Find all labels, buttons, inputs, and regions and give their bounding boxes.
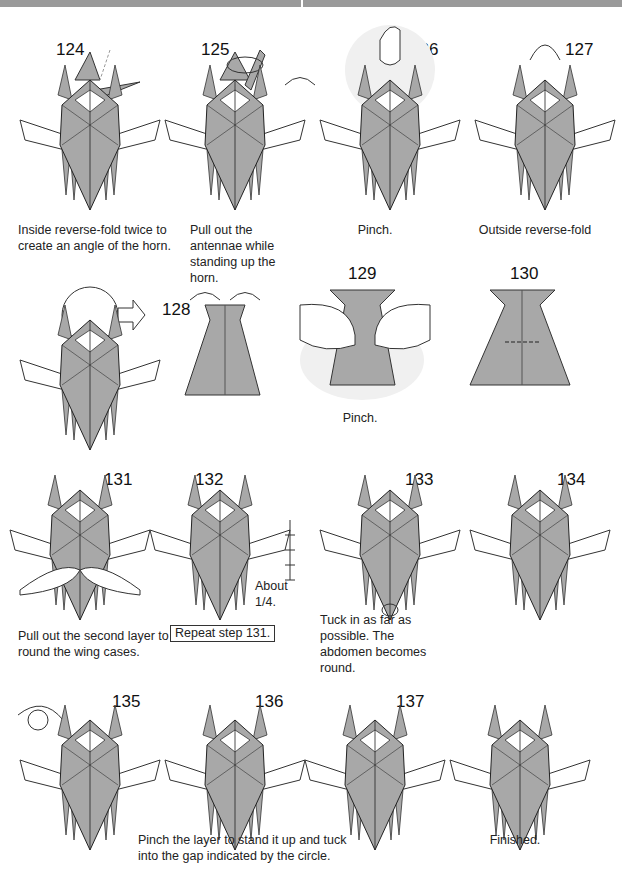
step-135: 135 <box>0 690 155 820</box>
step-136: 136 <box>155 690 310 820</box>
diagram-128-overview <box>0 270 150 420</box>
diagram-132 <box>155 460 310 620</box>
step-129: 129 <box>300 260 460 410</box>
caption-127: Outside reverse-fold <box>460 222 610 238</box>
diagram-137 <box>310 690 465 820</box>
diagram-133 <box>310 460 465 620</box>
step-133: 133 <box>310 460 465 620</box>
diagram-129 <box>300 260 460 410</box>
caption-136: Pinch the layer to stand it up and tuck … <box>138 832 363 864</box>
step-127: 127 <box>465 20 622 220</box>
diagram-126 <box>310 20 465 220</box>
step-125: 125 <box>155 20 310 220</box>
diagram-128 <box>150 270 300 420</box>
diagram-125 <box>155 20 310 220</box>
diagram-130 <box>460 260 622 410</box>
page-header-bar <box>0 0 622 7</box>
right-hand-icon <box>375 304 430 349</box>
repeat-step-label: Repeat step 131. <box>170 625 275 642</box>
diagram-131 <box>0 460 155 620</box>
diagram-127 <box>465 20 622 220</box>
diagram-136 <box>155 690 310 820</box>
caption-124: Inside reverse-fold twice to create an a… <box>18 222 173 254</box>
caption-129: Pinch. <box>310 410 410 426</box>
measure-note: About 1/4. <box>255 578 285 610</box>
caption-131: Pull out the second layer to round the w… <box>18 628 178 660</box>
arrow-right-icon <box>118 300 145 330</box>
step-134: 134 <box>465 460 622 620</box>
step-128: 128 <box>150 270 300 420</box>
step-132: 132 About 1/4. <box>155 460 310 620</box>
caption-133: Tuck in as far as possible. The abdomen … <box>320 612 445 676</box>
caption-finished: Finished. <box>470 832 560 848</box>
diagram-135 <box>0 690 155 820</box>
caption-126: Pinch. <box>330 222 420 238</box>
diagram-124 <box>0 20 155 220</box>
step-124: 124 <box>0 20 155 220</box>
header-divider <box>301 0 303 7</box>
step-128-overview <box>0 270 150 420</box>
step-130: 130 <box>460 260 622 410</box>
diagram-finished <box>465 690 622 820</box>
step-137: 137 <box>310 690 465 820</box>
step-131: 131 <box>0 460 155 620</box>
flip-over-icon <box>28 710 48 730</box>
step-126: 126 <box>310 20 465 220</box>
diagram-134 <box>465 460 622 620</box>
step-finished <box>465 690 622 820</box>
